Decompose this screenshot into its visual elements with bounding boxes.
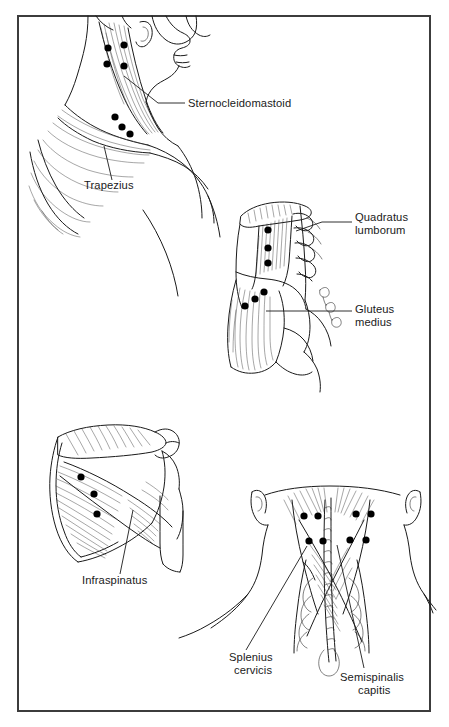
trigger-point (367, 510, 374, 517)
illustration-plate: Sternocleidomastoid Trapezius (0, 0, 449, 727)
label-quadratus-lumborum-line2: lumborum (355, 224, 406, 236)
label-infraspinatus: Infraspinatus (82, 574, 148, 586)
trigger-point (103, 60, 110, 67)
anatomy-figure-svg: Sternocleidomastoid Trapezius (0, 0, 449, 727)
trigger-point (77, 473, 84, 480)
trigger-point (104, 44, 111, 51)
trigger-point (118, 123, 125, 130)
trigger-point (300, 512, 307, 519)
label-sternocleidomastoid: Sternocleidomastoid (188, 97, 291, 109)
plate-border (18, 16, 430, 711)
trigger-point (352, 510, 359, 517)
label-quadratus-lumborum: Quadratus (355, 211, 408, 223)
trigger-point (120, 41, 127, 48)
trigger-point (90, 490, 97, 497)
trigger-point (111, 113, 118, 120)
trigger-point (260, 288, 267, 295)
trigger-point (264, 226, 271, 233)
trigger-point (241, 302, 248, 309)
trigger-point (93, 510, 100, 517)
label-gluteus-medius-line2: medius (355, 316, 392, 328)
label-gluteus-medius: Gluteus (355, 303, 395, 315)
trigger-point (264, 259, 271, 266)
label-semispinalis-capitis: Semispinalis (340, 671, 404, 683)
trigger-point (120, 62, 127, 69)
label-trapezius: Trapezius (84, 179, 134, 191)
trigger-point (251, 295, 258, 302)
trigger-point (319, 537, 326, 544)
trigger-point (314, 512, 321, 519)
label-splenius-cervicis-line2: cervicis (234, 664, 272, 676)
trigger-point (126, 130, 133, 137)
label-splenius-cervicis: Splenius (229, 651, 273, 663)
trigger-point (362, 536, 369, 543)
label-semispinalis-capitis-line2: capitis (358, 684, 391, 696)
trigger-point (264, 244, 271, 251)
trigger-point (305, 537, 312, 544)
trigger-point (346, 536, 353, 543)
